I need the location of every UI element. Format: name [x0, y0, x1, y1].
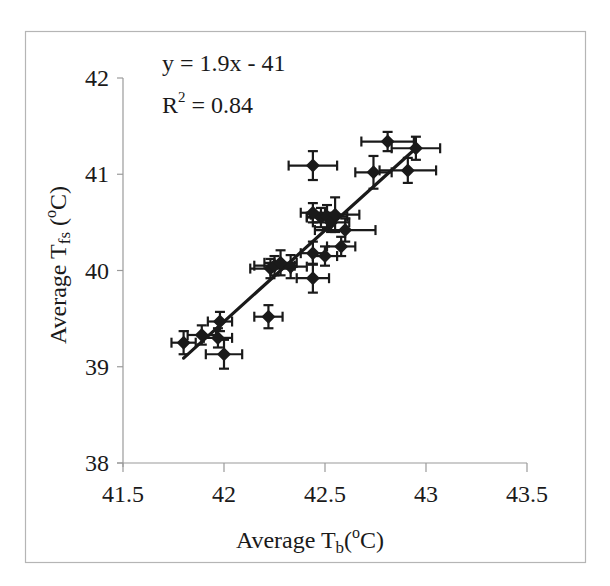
y-axis-title: Average Tfs (oC) — [42, 186, 74, 344]
x-tick-label: 41.5 — [102, 481, 144, 507]
trendline-equation: y = 1.9x - 41 — [162, 50, 286, 76]
x-tick-label: 43 — [414, 481, 438, 507]
scatter-chart: 383940414241.54242.54343.5 y = 1.9x - 41… — [0, 0, 610, 586]
y-tick-label: 38 — [85, 450, 109, 476]
x-tick-label: 43.5 — [506, 481, 548, 507]
y-tick-label: 39 — [85, 354, 109, 380]
x-tick-label: 42 — [212, 481, 236, 507]
y-tick-label: 41 — [85, 161, 109, 187]
y-tick-label: 40 — [85, 258, 109, 284]
r-squared-label: R2 = 0.84 — [162, 89, 253, 118]
y-tick-label: 42 — [85, 65, 109, 91]
x-axis-title: Average Tb(oC) — [236, 524, 384, 557]
x-tick-label: 42.5 — [304, 481, 346, 507]
